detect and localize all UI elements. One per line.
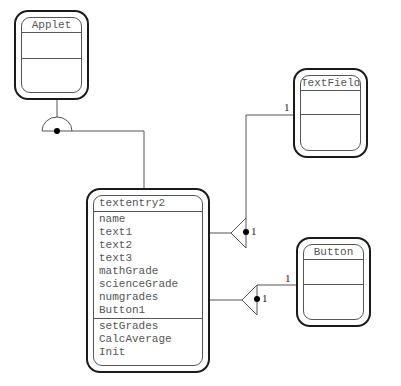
class-name: textentry2 bbox=[94, 196, 202, 212]
operation: Init bbox=[94, 346, 202, 359]
operation: CalcAverage bbox=[94, 333, 202, 346]
operations-section bbox=[301, 115, 360, 145]
attribute: text1 bbox=[94, 226, 202, 239]
attribute: mathGrade bbox=[94, 265, 202, 278]
attribute: text3 bbox=[94, 252, 202, 265]
multiplicity-label: 1 bbox=[262, 292, 268, 304]
attribute: name bbox=[94, 213, 202, 226]
attribute: text2 bbox=[94, 239, 202, 252]
operations-section bbox=[22, 59, 81, 89]
class-name: Applet bbox=[22, 18, 81, 33]
diagram-canvas: Applet TextField Button textentry2 name … bbox=[0, 0, 401, 386]
attributes-section: name text1 text2 text3 mathGrade science… bbox=[94, 212, 202, 319]
class-name: TextField bbox=[301, 76, 360, 91]
operation: setGrades bbox=[94, 320, 202, 333]
attribute: scienceGrade bbox=[94, 278, 202, 291]
multiplicity-label: 1 bbox=[284, 101, 290, 113]
attributes-section bbox=[301, 91, 360, 115]
multiplicity-label: 1 bbox=[251, 225, 257, 237]
operations-section bbox=[304, 285, 363, 315]
class-name: Button bbox=[304, 245, 363, 260]
class-textentry2[interactable]: textentry2 name text1 text2 text3 mathGr… bbox=[86, 188, 210, 373]
attributes-section bbox=[22, 33, 81, 59]
class-button[interactable]: Button bbox=[296, 237, 371, 327]
attribute: Button1 bbox=[94, 304, 202, 317]
operations-section: setGrades CalcAverage Init bbox=[94, 319, 202, 359]
class-applet[interactable]: Applet bbox=[14, 10, 89, 100]
multiplicity-label: 1 bbox=[285, 272, 291, 284]
class-textfield[interactable]: TextField bbox=[293, 68, 368, 158]
attributes-section bbox=[304, 260, 363, 285]
attribute: numgrades bbox=[94, 291, 202, 304]
